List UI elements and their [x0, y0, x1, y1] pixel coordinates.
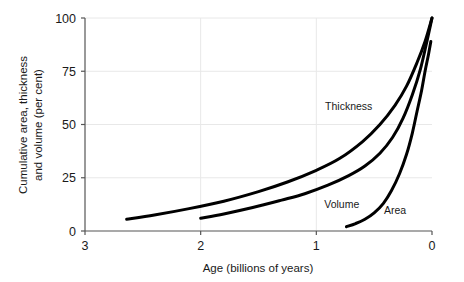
- y-axis-tick-label: 50: [62, 118, 76, 132]
- x-axis-title: Age (billions of years): [203, 262, 314, 274]
- x-axis-tick-label: 0: [429, 239, 436, 253]
- series-label-thickness: Thickness: [325, 100, 372, 112]
- y-axis-tick-label: 75: [62, 65, 76, 79]
- series-label-volume: Volume: [324, 198, 359, 210]
- series-label-area: Area: [384, 204, 406, 216]
- x-axis-tick-label: 1: [313, 239, 320, 253]
- chart-figure: 0255075100 3210 ThicknessVolumeArea Age …: [0, 0, 464, 282]
- y-axis-tick-label: 0: [69, 225, 76, 239]
- y-axis-tick-label: 100: [55, 12, 76, 26]
- x-axis-tick-label: 3: [82, 239, 89, 253]
- y-axis-title-line-2: and volume (per cent): [32, 69, 44, 181]
- y-axis-title-line-1: Cumulative area, thickness: [17, 56, 29, 194]
- y-axis-tick-label: 25: [62, 171, 76, 185]
- cumulative-area-thickness-volume-chart: 0255075100 3210 ThicknessVolumeArea Age …: [0, 0, 464, 282]
- chart-background: [0, 0, 464, 282]
- x-axis-tick-label: 2: [197, 239, 204, 253]
